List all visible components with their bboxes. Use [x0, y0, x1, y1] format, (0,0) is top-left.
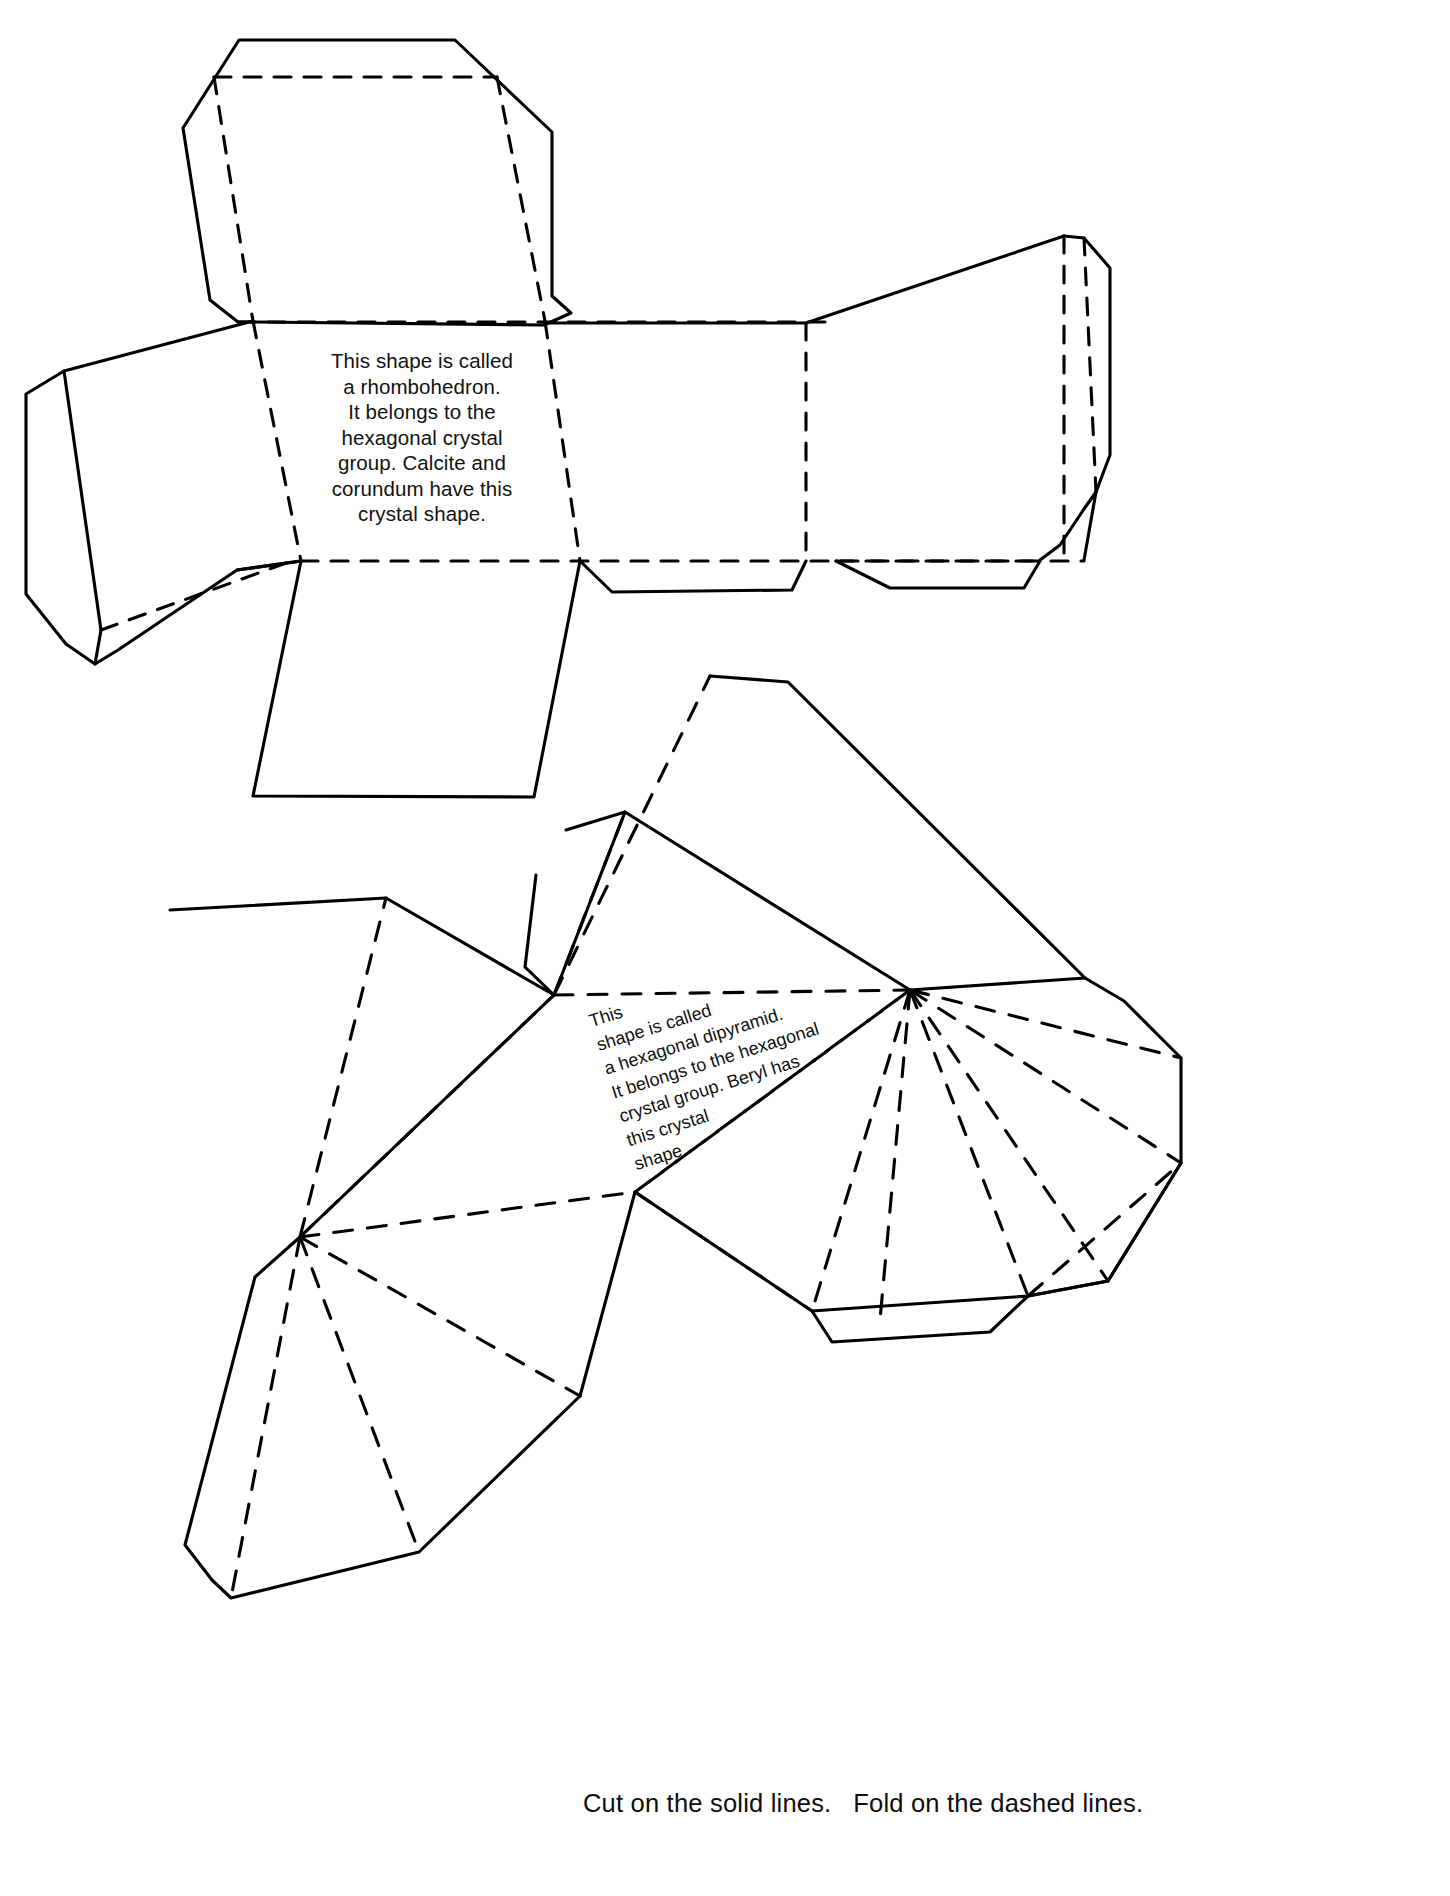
fold-top-left-vertical	[214, 77, 253, 321]
worksheet-page: This shape is called a rhombohedron. It …	[0, 0, 1450, 1896]
left-panel-outline	[26, 321, 301, 664]
fold-left-hub-e	[300, 1237, 419, 1552]
fold-right-hub-d	[910, 990, 1028, 1296]
left-panel-fold-bottom	[101, 563, 286, 630]
fold-left-hub-f	[231, 1237, 300, 1598]
cut-fold-instructions: Cut on the solid lines. Fold on the dash…	[583, 1789, 1143, 1818]
far-right-flap-outline	[1040, 236, 1110, 560]
fold-top-right-vertical	[497, 77, 545, 321]
upper-left-panel-outline	[525, 812, 625, 995]
left-panel-inner-cut	[64, 371, 101, 630]
bottom-hex-lower-edge	[635, 1163, 1181, 1311]
upper-right-panel-outline	[625, 676, 1085, 990]
left-hub-folds	[231, 898, 635, 1598]
lower-left-panel-outline	[185, 1237, 580, 1598]
far-right-flap-fold	[1084, 238, 1096, 492]
tab-bottom-center-right	[580, 561, 806, 592]
tab-bottom-right	[836, 561, 1040, 588]
fold-left-hub-d	[300, 1237, 580, 1396]
fold-center-left	[253, 321, 301, 561]
fold-left-hub-a	[300, 898, 386, 1237]
top-face-folds	[214, 77, 545, 321]
fold-mid-hub-b	[554, 676, 710, 995]
crystal-nets-drawing	[0, 0, 1450, 1896]
right-panel-top-edge	[544, 236, 1064, 323]
left-panel-corner	[95, 630, 101, 664]
rhombohedron-net	[26, 40, 1110, 797]
rhombohedron-label-text: This shape is called a rhombohedron. It …	[316, 348, 528, 527]
fold-left-hub-c	[300, 1192, 635, 1237]
fold-center-right	[545, 321, 580, 561]
lower-center-edge	[580, 1192, 635, 1396]
middle-hub-folds	[554, 676, 910, 995]
bottom-panel-outline	[253, 561, 580, 797]
top-face-outline	[183, 40, 571, 325]
left-large-panel-outline	[170, 898, 554, 1237]
